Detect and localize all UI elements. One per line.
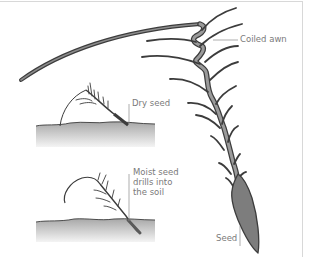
label-dry-seed: Dry seed	[132, 98, 170, 108]
diagram-frame: Coiled awn Dry seed Moist seed drills in…	[0, 0, 312, 257]
dry-seed-illustration	[36, 83, 155, 147]
label-coiled-awn: Coiled awn	[240, 34, 287, 44]
label-seed: Seed	[216, 233, 237, 243]
label-moist-seed: Moist seed drills into the soil	[133, 167, 183, 197]
